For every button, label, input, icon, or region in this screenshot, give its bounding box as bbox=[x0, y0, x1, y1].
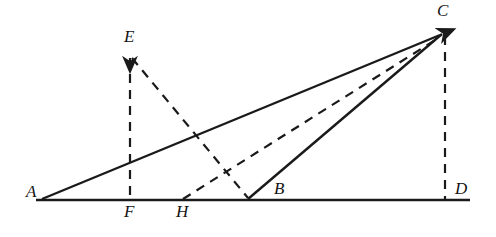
vertex-label-C: C bbox=[437, 2, 448, 19]
line-B-to-C bbox=[248, 34, 442, 199]
line-H-to-C bbox=[183, 37, 440, 199]
vertex-label-H: H bbox=[176, 203, 188, 220]
line-E-to-B bbox=[132, 58, 248, 198]
vertex-label-A: A bbox=[26, 183, 36, 200]
geometry-canvas bbox=[0, 0, 496, 237]
line-A-to-C bbox=[42, 35, 440, 199]
vertex-label-E: E bbox=[124, 28, 134, 45]
geometry-figure: A B C D E F H bbox=[0, 0, 496, 237]
vertex-label-D: D bbox=[455, 180, 467, 197]
vertex-label-F: F bbox=[124, 203, 134, 220]
vertex-label-B: B bbox=[274, 180, 284, 197]
